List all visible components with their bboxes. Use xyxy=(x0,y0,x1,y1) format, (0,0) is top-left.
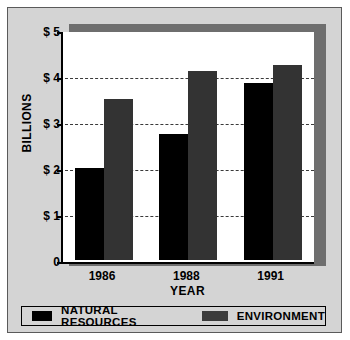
x-tick-label: 1991 xyxy=(257,269,284,283)
y-tick-label: $ 1 xyxy=(26,209,60,223)
y-tick-label: $ 2 xyxy=(26,163,60,177)
y-tick-mark xyxy=(57,170,63,172)
x-tick-label: 1988 xyxy=(173,269,200,283)
bar-1991-environment xyxy=(273,65,302,261)
y-tick-mark xyxy=(57,124,63,126)
plot-area xyxy=(61,24,326,266)
plot-panel xyxy=(61,32,314,264)
bar-1988-natural-resources xyxy=(159,134,188,261)
y-axis-tick-labels: $ 5$ 4$ 3$ 2$ 10 xyxy=(22,8,60,334)
x-axis-title: YEAR xyxy=(61,284,314,298)
bar-1986-environment xyxy=(104,99,133,260)
legend-item-natural-resources: NATURAL RESOURCES xyxy=(32,304,166,328)
bar-1991-natural-resources xyxy=(244,83,273,260)
y-tick-label: $ 5 xyxy=(26,25,60,39)
legend-swatch-icon-natural-resources xyxy=(32,311,52,321)
chart-figure: BILLIONS $ 5$ 4$ 3$ 2$ 10 198619881991 Y… xyxy=(7,7,342,333)
bar-1988-environment xyxy=(188,71,217,260)
y-tick-label: $ 3 xyxy=(26,117,60,131)
legend-item-environment: ENVIRONMENT xyxy=(202,310,325,322)
y-tick-mark xyxy=(57,78,63,80)
legend-label-environment: ENVIRONMENT xyxy=(237,310,325,322)
y-tick-mark xyxy=(57,262,63,264)
y-tick-label: 0 xyxy=(26,255,60,269)
x-tick-label: 1986 xyxy=(89,269,116,283)
y-tick-mark xyxy=(57,32,63,34)
legend-swatch-icon-environment xyxy=(202,311,228,321)
bar-1986-natural-resources xyxy=(75,168,104,260)
y-tick-label: $ 4 xyxy=(26,71,60,85)
legend-label-natural-resources: NATURAL RESOURCES xyxy=(61,304,166,328)
chart-legend: NATURAL RESOURCES ENVIRONMENT xyxy=(21,306,326,326)
y-tick-mark xyxy=(57,216,63,218)
